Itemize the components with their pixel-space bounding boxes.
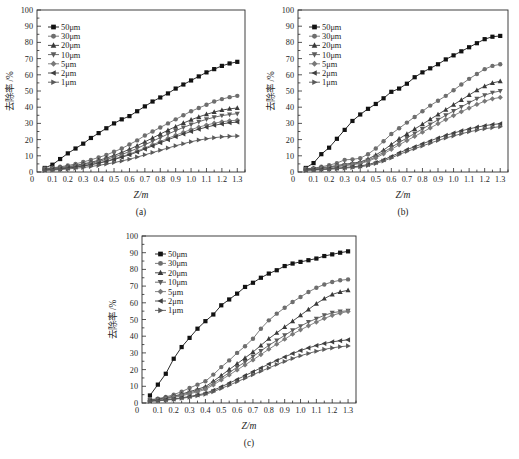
data-point	[404, 131, 409, 136]
data-point	[346, 288, 351, 293]
data-point	[420, 70, 424, 74]
series-line	[45, 114, 238, 170]
data-point	[204, 103, 208, 107]
data-point	[58, 157, 62, 161]
data-point	[219, 377, 224, 382]
data-point	[290, 261, 294, 265]
data-point	[330, 345, 335, 350]
data-point	[474, 97, 479, 102]
x-tick-label: 0.5	[371, 175, 381, 184]
x-tick-label: 0.5	[216, 406, 226, 415]
data-point	[173, 117, 177, 121]
data-point	[227, 372, 232, 377]
data-point	[498, 62, 502, 66]
data-point	[322, 296, 327, 301]
data-point	[267, 365, 272, 370]
legend-label: 20μm	[322, 41, 342, 50]
data-point	[135, 138, 139, 142]
x-tick-label: 0.8	[417, 175, 427, 184]
data-point	[243, 355, 248, 360]
data-point	[322, 282, 326, 286]
data-point	[235, 292, 239, 296]
data-point	[374, 102, 378, 106]
x-origin-label: 0	[135, 406, 139, 415]
legend-label: 50μm	[61, 23, 81, 32]
x-tick-label: 0.1	[47, 175, 57, 184]
data-point	[274, 330, 279, 335]
data-point	[290, 351, 295, 356]
legend-marker-circle-icon	[312, 34, 317, 39]
data-point	[475, 72, 479, 76]
x-tick-label: 1.2	[217, 175, 227, 184]
data-point	[120, 117, 124, 121]
x-tick-label: 0.2	[63, 175, 73, 184]
data-point	[306, 258, 310, 262]
data-point	[436, 62, 440, 66]
data-point	[189, 139, 194, 144]
data-point	[243, 344, 247, 348]
y-tick-label: 100	[21, 6, 33, 15]
data-point	[319, 152, 323, 156]
legend-label: 2μm	[61, 69, 77, 78]
data-point	[211, 312, 215, 316]
data-point	[275, 362, 280, 367]
data-point	[174, 86, 178, 90]
x-tick-label: 0.2	[169, 406, 179, 415]
panel-caption: (c)	[244, 438, 254, 449]
data-point	[81, 142, 85, 146]
data-point	[203, 379, 207, 383]
data-point	[459, 49, 463, 53]
data-point	[451, 102, 456, 107]
x-tick-label: 0.8	[155, 175, 165, 184]
y-tick-label: 90	[286, 22, 294, 31]
data-point	[405, 82, 409, 86]
data-point	[436, 99, 440, 103]
data-point	[267, 318, 271, 322]
data-point	[275, 268, 279, 272]
legend-label: 30μm	[61, 32, 81, 41]
data-point	[259, 276, 263, 280]
legend-label: 20μm	[61, 41, 81, 50]
series-10μm	[303, 89, 502, 172]
legend-label: 1μm	[61, 78, 77, 87]
series-30μm	[42, 94, 239, 171]
y-tick-label: 10	[286, 152, 294, 161]
data-point	[327, 146, 331, 150]
data-point	[420, 121, 425, 126]
data-point	[311, 161, 315, 165]
data-point	[266, 347, 271, 352]
data-point	[490, 96, 495, 101]
data-point	[235, 134, 240, 139]
y-tick-label: 20	[286, 136, 294, 145]
data-point	[444, 57, 448, 61]
y-tick-label: 40	[130, 332, 138, 341]
x-tick-label: 0.2	[324, 175, 334, 184]
data-point	[498, 79, 503, 84]
data-point	[338, 344, 343, 349]
series-line	[45, 96, 238, 169]
data-point	[203, 319, 207, 323]
x-axis-title: Z/m	[242, 420, 257, 431]
y-tick-label: 60	[25, 71, 33, 80]
x-tick-label: 1.0	[186, 175, 196, 184]
data-point	[345, 337, 350, 342]
legend-label: 5μm	[168, 288, 184, 297]
y-tick-label: 30	[130, 349, 138, 358]
data-point	[166, 146, 171, 151]
legend-label: 30μm	[322, 32, 342, 41]
data-point	[150, 129, 154, 133]
data-point	[451, 88, 455, 92]
data-point	[282, 306, 286, 310]
x-tick-label: 0.6	[124, 175, 134, 184]
data-point	[259, 326, 263, 330]
x-tick-label: 1.3	[495, 175, 505, 184]
chart-svg-a: 01020304050607080901000.10.20.30.40.50.6…	[0, 0, 258, 228]
data-point	[274, 358, 279, 363]
data-point	[235, 60, 239, 64]
x-tick-label: 1.3	[232, 175, 242, 184]
data-point	[343, 128, 347, 132]
chart-svg-c: 01020304050607080901000.10.20.30.40.50.6…	[100, 228, 372, 459]
data-point	[389, 147, 394, 152]
data-point	[330, 252, 334, 256]
data-point	[335, 137, 339, 141]
